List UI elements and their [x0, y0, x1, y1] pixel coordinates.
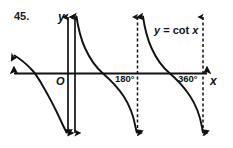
- y-axis-label: y: [58, 11, 65, 23]
- x-axis-label: x: [210, 75, 217, 87]
- equation-argument: x: [192, 24, 198, 36]
- origin-label: O: [56, 76, 65, 87]
- equation-function: cot: [173, 24, 190, 36]
- x-tick-label-180: 180°: [115, 74, 135, 84]
- x-tick-label-360: 360°: [178, 74, 198, 84]
- equation-annotation: y = cot x: [154, 25, 198, 36]
- curve-branch-left: [15, 56, 67, 133]
- problem-number-label: 45.: [14, 11, 29, 22]
- cotangent-graph-figure: 45. y x O 180° 360° y = cot x: [0, 0, 233, 148]
